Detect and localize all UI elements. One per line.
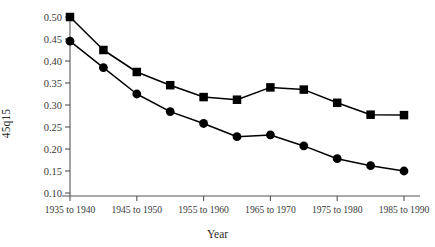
x-tick-label: 1965 to 1970 bbox=[245, 204, 296, 215]
data-point-circle bbox=[333, 154, 342, 163]
data-series-2 bbox=[66, 37, 409, 176]
x-axis: 1935 to 19401945 to 19501955 to 19601965… bbox=[45, 196, 430, 215]
data-point-circle bbox=[366, 161, 375, 170]
y-tick-label: 0.45 bbox=[44, 34, 62, 45]
data-series-group bbox=[66, 13, 409, 176]
data-point-circle bbox=[99, 63, 108, 72]
data-point-circle bbox=[233, 132, 242, 141]
data-point-circle bbox=[132, 90, 141, 99]
y-tick-label: 0.35 bbox=[44, 78, 62, 89]
data-point-square bbox=[166, 81, 175, 90]
data-point-square bbox=[400, 111, 409, 120]
data-point-circle bbox=[66, 37, 75, 46]
data-point-square bbox=[66, 13, 75, 22]
x-tick-label: 1985 to 1990 bbox=[379, 204, 430, 215]
y-tick-label: 0.10 bbox=[44, 188, 62, 199]
data-point-square bbox=[199, 93, 208, 102]
data-point-square bbox=[99, 46, 108, 55]
y-tick-label: 0.30 bbox=[44, 100, 62, 111]
x-tick-label: 1935 to 1940 bbox=[45, 204, 96, 215]
data-point-square bbox=[266, 83, 275, 92]
data-point-circle bbox=[400, 167, 409, 176]
data-point-square bbox=[133, 68, 142, 77]
data-point-square bbox=[233, 95, 242, 104]
line-chart-plot: 0.100.150.200.250.300.350.400.450.50 193… bbox=[0, 0, 435, 247]
data-point-circle bbox=[166, 107, 175, 116]
y-tick-label: 0.20 bbox=[44, 144, 62, 155]
y-tick-label: 0.15 bbox=[44, 166, 62, 177]
y-tick-label: 0.50 bbox=[44, 12, 62, 23]
data-point-circle bbox=[266, 131, 275, 140]
data-series-1 bbox=[66, 13, 409, 120]
data-point-square bbox=[366, 110, 375, 119]
x-tick-label: 1945 to 1950 bbox=[111, 204, 162, 215]
x-axis-title: Year bbox=[0, 228, 435, 240]
x-tick-label: 1975 to 1980 bbox=[312, 204, 363, 215]
y-tick-label: 0.25 bbox=[44, 122, 62, 133]
x-tick-label: 1955 to 1960 bbox=[178, 204, 229, 215]
data-point-square bbox=[333, 99, 342, 108]
y-tick-label: 0.40 bbox=[44, 56, 62, 67]
data-point-circle bbox=[199, 119, 208, 128]
data-point-square bbox=[300, 85, 309, 94]
chart-figure: 0.100.150.200.250.300.350.400.450.50 193… bbox=[0, 0, 435, 247]
data-point-circle bbox=[299, 142, 308, 151]
